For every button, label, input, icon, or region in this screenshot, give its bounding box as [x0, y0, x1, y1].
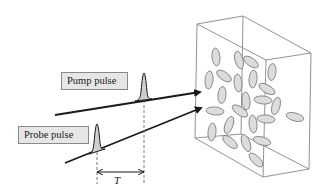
- probe-pulse-label: Probe pulse: [18, 126, 89, 144]
- molecules: [204, 48, 304, 170]
- delay-time-label: T: [114, 174, 120, 186]
- pump-pulse: [135, 73, 152, 101]
- pump-probe-diagram: [0, 0, 327, 195]
- pump-beam: [55, 92, 200, 115]
- pump-pulse-label: Pump pulse: [61, 72, 128, 90]
- probe-pulse: [89, 124, 105, 154]
- sample-box: [195, 16, 311, 177]
